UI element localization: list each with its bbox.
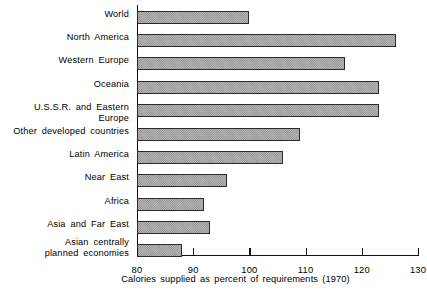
category-label-near-east: Near East xyxy=(0,172,129,183)
x-axis-tick xyxy=(137,248,138,256)
category-label-world: World xyxy=(0,9,129,20)
bar-africa xyxy=(137,198,204,211)
category-label-africa: Africa xyxy=(0,196,129,207)
bar-ussr-and-eastern-europe xyxy=(137,104,379,117)
category-label-ussr-and-eastern-europe: U.S.S.R. and Eastern Europe xyxy=(0,102,129,123)
plot-area: 80 90 100 110 120 130 xyxy=(137,5,418,256)
bar-western-europe xyxy=(137,57,345,70)
bar-oceania xyxy=(137,81,379,94)
x-axis-tick xyxy=(306,248,307,256)
x-axis-tick xyxy=(249,248,250,256)
x-axis-tick xyxy=(193,248,194,256)
category-label-western-europe: Western Europe xyxy=(0,55,129,66)
bar-asian-centrally-planned-economies xyxy=(137,244,182,257)
bar-world xyxy=(137,11,249,24)
bar-other-developed-countries xyxy=(137,128,300,141)
category-label-latin-america: Latin America xyxy=(0,149,129,160)
bar-near-east xyxy=(137,174,227,187)
bar-latin-america xyxy=(137,151,283,164)
x-axis-caption: Calories supplied as percent of requirem… xyxy=(0,274,427,284)
category-labels: World North America Western Europe Ocean… xyxy=(0,0,133,252)
bar-north-america xyxy=(137,34,396,47)
category-label-other-developed-countries: Other developed countries xyxy=(0,126,129,137)
category-label-asian-centrally-planned-economies: Asian centrally planned economies xyxy=(0,237,129,258)
bar-asia-and-far-east xyxy=(137,221,210,234)
category-label-oceania: Oceania xyxy=(0,79,129,90)
x-axis-tick xyxy=(362,248,363,256)
bar-chart: World North America Western Europe Ocean… xyxy=(0,0,427,295)
x-axis-tick xyxy=(418,248,419,256)
category-label-north-america: North America xyxy=(0,32,129,43)
category-label-asia-and-far-east: Asia and Far East xyxy=(0,219,129,230)
